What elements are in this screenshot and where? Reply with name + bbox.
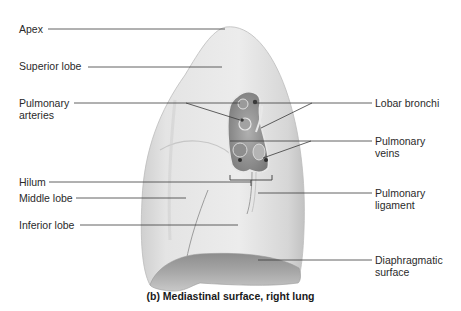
label-diaphragmatic-surface: Diaphragmatic surface bbox=[375, 254, 443, 278]
label-pulmonary-ligament-line2: ligament bbox=[375, 199, 425, 211]
label-diaphragmatic-surface-line2: surface bbox=[375, 266, 443, 278]
figure-caption: (b) Mediastinal surface, right lung bbox=[0, 290, 461, 302]
lung-outline bbox=[141, 27, 304, 285]
label-hilum: Hilum bbox=[19, 176, 46, 188]
label-pulmonary-veins: Pulmonary veins bbox=[375, 135, 425, 159]
label-pulmonary-ligament-line1: Pulmonary bbox=[375, 187, 425, 199]
label-pulmonary-veins-line1: Pulmonary bbox=[375, 135, 425, 147]
diagram-stage: Apex Superior lobe Pulmonary arteries Hi… bbox=[0, 0, 461, 311]
label-middle-lobe: Middle lobe bbox=[19, 192, 73, 204]
label-pulmonary-ligament: Pulmonary ligament bbox=[375, 187, 425, 211]
label-lobar-bronchi: Lobar bronchi bbox=[375, 97, 439, 109]
label-inferior-lobe: Inferior lobe bbox=[19, 219, 74, 231]
label-diaphragmatic-surface-line1: Diaphragmatic bbox=[375, 254, 443, 266]
label-pulmonary-arteries-line2: arteries bbox=[19, 109, 69, 121]
label-apex: Apex bbox=[19, 23, 43, 35]
label-pulmonary-arteries: Pulmonary arteries bbox=[19, 97, 69, 121]
label-pulmonary-veins-line2: veins bbox=[375, 147, 425, 159]
label-pulmonary-arteries-line1: Pulmonary bbox=[19, 97, 69, 109]
label-superior-lobe: Superior lobe bbox=[19, 60, 81, 72]
